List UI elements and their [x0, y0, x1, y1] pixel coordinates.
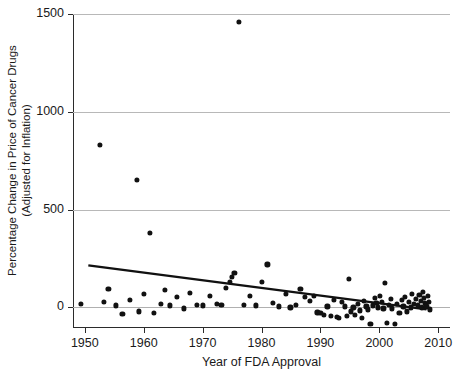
x-axis-tick-label: 2000 [365, 336, 393, 350]
y-axis-label-text: Percentage Change in Price of Cancer Dru… [5, 45, 33, 276]
y-axis-tick-label: 0 [57, 299, 64, 313]
x-axis-tick-label: 1980 [248, 336, 276, 350]
y-axis-label: Percentage Change in Price of Cancer Dru… [2, 4, 36, 317]
y-axis-tick-label: 1500 [36, 6, 64, 20]
x-axis-tick-label: 2010 [424, 336, 452, 350]
plot-area [73, 14, 450, 327]
x-axis-tick [320, 328, 321, 333]
x-axis-tick-label: 1970 [189, 336, 217, 350]
y-axis-tick-label: 1000 [36, 104, 64, 118]
x-axis-tick-label: 1950 [71, 336, 99, 350]
x-axis-tick [438, 328, 439, 333]
x-axis-tick [262, 328, 263, 333]
x-axis-tick [203, 328, 204, 333]
x-axis-tick-label: 1960 [130, 336, 158, 350]
x-axis-tick [379, 328, 380, 333]
x-axis-tick [85, 328, 86, 333]
trend-line-segment [88, 265, 426, 309]
y-axis-label-line1: Percentage Change in Price of Cancer Dru… [6, 45, 18, 276]
scatter-chart-figure: Percentage Change in Price of Cancer Dru… [0, 0, 462, 383]
y-axis-tick-label: 500 [43, 202, 64, 216]
x-axis-tick [144, 328, 145, 333]
x-axis-tick-label: 1990 [307, 336, 335, 350]
trend-line [73, 14, 450, 327]
y-axis-label-line2: (Adjusted for Inflation) [20, 104, 32, 217]
x-axis-label: Year of FDA Approval [73, 355, 450, 369]
